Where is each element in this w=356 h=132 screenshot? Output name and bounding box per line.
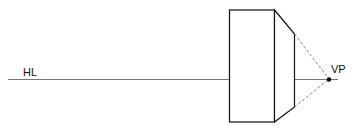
perspective-diagram: HL VP <box>0 0 356 132</box>
vanishing-point-label: VP <box>331 64 346 75</box>
side-face <box>275 10 295 122</box>
horizon-line-label: HL <box>23 67 37 78</box>
convergence-line-top <box>295 34 330 79</box>
front-face <box>230 10 275 122</box>
vanishing-point-dot <box>327 77 332 82</box>
convergence-line-bottom <box>295 79 330 107</box>
diagram-canvas <box>0 0 356 132</box>
